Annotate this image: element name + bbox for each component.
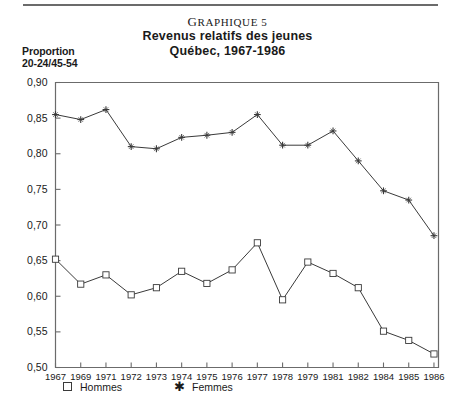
star-marker-icon: ✱ bbox=[174, 382, 185, 392]
legend-label-femmes: Femmes bbox=[192, 381, 233, 393]
data-point-marker-star bbox=[103, 106, 110, 113]
data-point-marker-square bbox=[380, 328, 386, 334]
data-point-marker-star bbox=[229, 129, 236, 136]
data-point-marker-star bbox=[304, 142, 311, 149]
data-point-marker-star bbox=[431, 232, 438, 239]
y-tick-label: 0,85 bbox=[27, 112, 48, 124]
data-point-marker-star bbox=[128, 143, 135, 150]
data-point-marker-square bbox=[78, 281, 84, 287]
series-line-hommes bbox=[56, 243, 434, 354]
legend-item-femmes: ✱ Femmes bbox=[174, 381, 233, 393]
chart-legend: Hommes ✱ Femmes bbox=[62, 381, 442, 395]
y-tick-label: 0,75 bbox=[27, 183, 48, 195]
data-point-marker-square bbox=[103, 272, 109, 278]
data-point-marker-star bbox=[52, 111, 59, 118]
data-point-marker-star bbox=[203, 132, 210, 139]
y-tick-label: 0,60 bbox=[27, 290, 48, 302]
data-point-marker-square bbox=[254, 240, 260, 246]
data-point-marker-square bbox=[52, 256, 58, 262]
data-point-marker-square bbox=[229, 267, 235, 273]
data-point-marker-square bbox=[406, 337, 412, 343]
data-point-marker-star bbox=[153, 145, 160, 152]
y-tick-label: 0,65 bbox=[27, 254, 48, 266]
y-tick-label: 0,55 bbox=[27, 325, 48, 337]
data-point-marker-square bbox=[179, 268, 185, 274]
data-point-marker-square bbox=[128, 292, 134, 298]
data-point-marker-square bbox=[355, 285, 361, 291]
series-line-femmes bbox=[56, 110, 434, 236]
data-point-marker-square bbox=[153, 285, 159, 291]
y-tick-label: 0,90 bbox=[27, 76, 48, 88]
figure-container: GRAPHIQUE 5 Revenus relatifs des jeunes … bbox=[0, 0, 455, 397]
data-point-marker-square bbox=[431, 351, 437, 357]
data-point-marker-square bbox=[305, 259, 311, 265]
data-point-marker-square bbox=[330, 270, 336, 276]
legend-label-hommes: Hommes bbox=[80, 381, 122, 393]
y-tick-label: 0,70 bbox=[27, 219, 48, 231]
data-point-marker-square bbox=[204, 280, 210, 286]
y-tick-label: 0,80 bbox=[27, 147, 48, 159]
legend-item-hommes: Hommes bbox=[62, 381, 122, 393]
data-point-marker-star bbox=[178, 134, 185, 141]
data-point-marker-star bbox=[405, 197, 412, 204]
chart-plot-area: 0,900,850,800,750,700,650,600,550,501967… bbox=[0, 0, 455, 397]
square-marker-icon bbox=[62, 382, 73, 393]
data-point-marker-star bbox=[77, 116, 84, 123]
data-point-marker-square bbox=[279, 297, 285, 303]
